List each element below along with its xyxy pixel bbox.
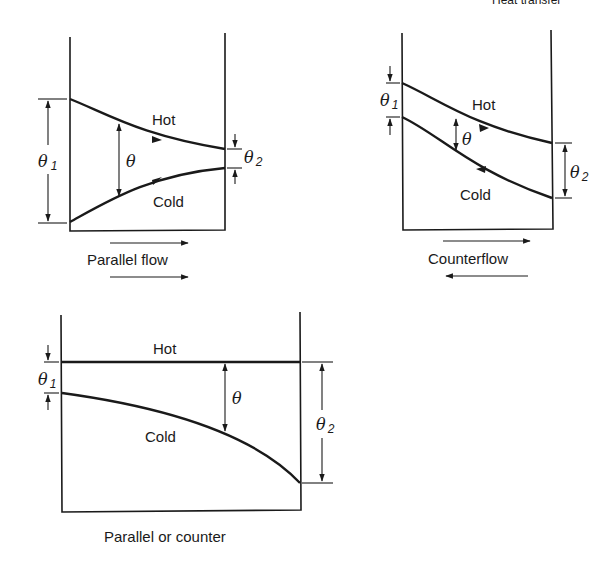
- heat-exchanger-diagrams: Heat transfer Hot Cold θ θ1 θ2 Parallel …: [0, 0, 610, 580]
- counterflow-diagram: Hot Cold θ θ1 θ2 Counterflow: [380, 30, 589, 276]
- theta1-label: θ1: [38, 152, 57, 173]
- hot-curve: [402, 83, 552, 143]
- theta1-label: θ1: [380, 91, 398, 112]
- axes-frame: [61, 312, 301, 512]
- axes-frame: [70, 33, 225, 231]
- cold-label: Cold: [153, 193, 184, 210]
- caption-parallel-or-counter: Parallel or counter: [104, 528, 226, 545]
- cold-curve: [70, 168, 225, 222]
- theta-label: θ: [126, 152, 136, 171]
- parallel-flow-diagram: Hot Cold θ θ1 θ2 Parallel flow: [38, 33, 263, 277]
- hot-direction-arrow-icon: [152, 136, 162, 143]
- theta-label: θ: [232, 389, 242, 408]
- hot-curve: [70, 99, 225, 149]
- page-header: Heat transfer: [492, 0, 561, 7]
- theta2-label: θ2: [570, 163, 589, 184]
- cold-label: Cold: [460, 186, 491, 203]
- hot-label: Hot: [472, 96, 496, 113]
- hot-label: Hot: [153, 340, 177, 357]
- theta-label: θ: [462, 130, 472, 149]
- cold-label: Cold: [145, 428, 176, 445]
- theta2-label: θ2: [244, 148, 263, 169]
- parallel-or-counter-diagram: Hot Cold θ θ1 θ2 Parallel or counter: [38, 312, 335, 545]
- caption-parallel-flow: Parallel flow: [87, 251, 168, 268]
- caption-counterflow: Counterflow: [428, 250, 508, 267]
- theta2-label: θ2: [316, 415, 335, 436]
- hot-label: Hot: [152, 111, 176, 128]
- cold-curve: [62, 393, 300, 483]
- theta1-label: θ1: [38, 370, 56, 391]
